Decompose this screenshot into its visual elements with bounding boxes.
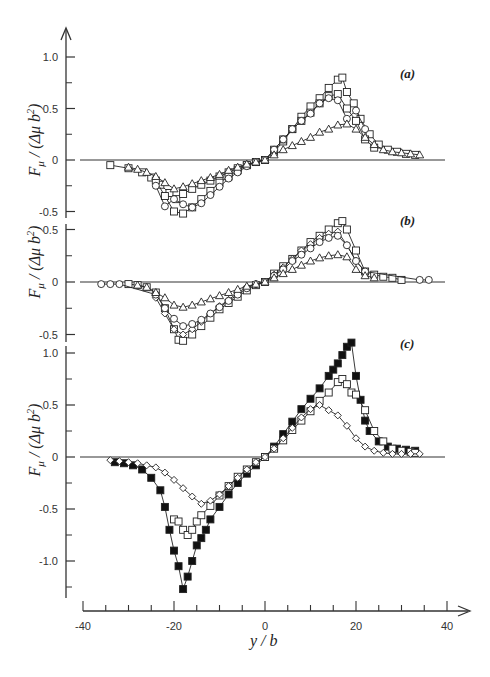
data-point-circle — [98, 281, 105, 288]
data-point-circle — [289, 126, 296, 133]
data-point-square — [193, 542, 200, 549]
data-point-square — [307, 395, 314, 402]
data-point-square — [202, 526, 209, 533]
data-point-triangle — [352, 265, 360, 272]
data-point-square — [348, 339, 355, 346]
data-point-triangle — [297, 261, 305, 268]
y-axis-title: Fμ / (Δμ b2) — [25, 104, 46, 178]
data-point-circle — [225, 297, 232, 304]
data-point-circle — [216, 183, 223, 190]
data-point-circle — [307, 110, 314, 117]
data-point-circle — [161, 203, 168, 210]
data-point-circle — [171, 196, 178, 203]
data-point-square — [171, 208, 178, 215]
data-point-triangle — [334, 251, 342, 258]
series-line — [156, 94, 374, 213]
data-point-square — [343, 226, 350, 233]
data-point-square — [198, 535, 205, 542]
data-point-circle — [362, 126, 369, 133]
data-point-circle — [107, 281, 114, 288]
data-point-diamond — [152, 464, 159, 471]
y-tick-label: -1.0 — [39, 555, 58, 567]
data-point-square — [180, 586, 187, 593]
data-point-square — [175, 563, 182, 570]
x-tick-label: -40 — [75, 620, 91, 632]
data-point-circle — [198, 200, 205, 207]
data-point-square — [184, 573, 191, 580]
data-point-circle — [116, 281, 123, 288]
data-point-triangle — [279, 146, 287, 153]
data-point-square — [371, 428, 378, 435]
data-point-circle — [152, 182, 159, 189]
data-point-square — [161, 193, 168, 200]
data-point-circle — [180, 323, 187, 330]
data-point-square — [175, 518, 182, 525]
data-point-circle — [225, 175, 232, 182]
y-tick-label: 0.5 — [43, 224, 58, 236]
y-tick-label: 0.5 — [43, 103, 58, 115]
panel-label-c: (c) — [400, 336, 414, 351]
data-point-square — [148, 474, 155, 481]
data-point-square — [316, 385, 323, 392]
data-point-circle — [316, 100, 323, 107]
series-line — [115, 343, 415, 589]
data-point-triangle — [170, 301, 178, 308]
data-point-square — [353, 391, 360, 398]
data-point-diamond — [325, 407, 332, 414]
y-tick-label: 0 — [52, 451, 58, 463]
data-point-circle — [325, 95, 332, 102]
data-point-triangle — [297, 137, 305, 144]
data-point-square — [166, 526, 173, 533]
data-point-circle — [416, 276, 423, 283]
data-point-circle — [325, 234, 332, 241]
data-point-square — [216, 503, 223, 510]
panel-label-a: (a) — [400, 66, 415, 81]
x-axis-title: y / b — [248, 632, 278, 650]
data-point-circle — [353, 258, 360, 265]
data-point-square — [207, 516, 214, 523]
data-point-square — [325, 84, 332, 91]
y-axis-title: Fμ / (Δμ b2) — [25, 404, 46, 478]
data-point-circle — [180, 201, 187, 208]
data-point-circle — [280, 136, 287, 143]
axes: 1.00.50-0.5Fμ / (Δμ b2)0.50-0.5Fμ / (Δμ … — [25, 28, 470, 632]
data-point-square — [189, 558, 196, 565]
data-point-circle — [334, 232, 341, 239]
y-tick-label: 0 — [52, 276, 58, 288]
data-point-circle — [189, 204, 196, 211]
data-point-circle — [425, 276, 432, 283]
data-point-square — [339, 352, 346, 359]
data-point-square — [343, 89, 350, 96]
data-point-circle — [289, 258, 296, 265]
data-point-circle — [298, 117, 305, 124]
chart-figure: 1.00.50-0.5Fμ / (Δμ b2)0.50-0.5Fμ / (Δμ … — [0, 0, 490, 677]
x-tick-label: 40 — [441, 620, 453, 632]
data-point-circle — [307, 245, 314, 252]
data-point-triangle — [325, 125, 333, 132]
y-tick-label: 1.0 — [43, 51, 58, 63]
data-point-circle — [334, 97, 341, 104]
data-point-circle — [207, 310, 214, 317]
data-point-square — [353, 117, 360, 124]
data-point-circle — [198, 316, 205, 323]
data-point-square — [350, 100, 357, 107]
y-tick-label: -0.5 — [39, 503, 58, 515]
data-point-square — [157, 487, 164, 494]
x-tick-label: 20 — [350, 620, 362, 632]
y-tick-label: 1.0 — [43, 347, 58, 359]
data-point-diamond — [371, 447, 378, 454]
data-point-square — [189, 526, 196, 533]
data-point-circle — [353, 107, 360, 114]
data-point-square — [107, 162, 114, 169]
data-point-square — [325, 389, 332, 396]
data-point-square — [339, 218, 346, 225]
series-line — [156, 98, 365, 207]
data-point-circle — [189, 321, 196, 328]
data-point-circle — [298, 251, 305, 258]
y-tick-label: 0 — [52, 154, 58, 166]
data-point-circle — [171, 315, 178, 322]
y-tick-label: -0.5 — [39, 206, 58, 218]
data-point-square — [353, 247, 360, 254]
data-point-triangle — [307, 133, 315, 140]
y-axis-title: Fμ / (Δμ b2) — [25, 226, 46, 300]
